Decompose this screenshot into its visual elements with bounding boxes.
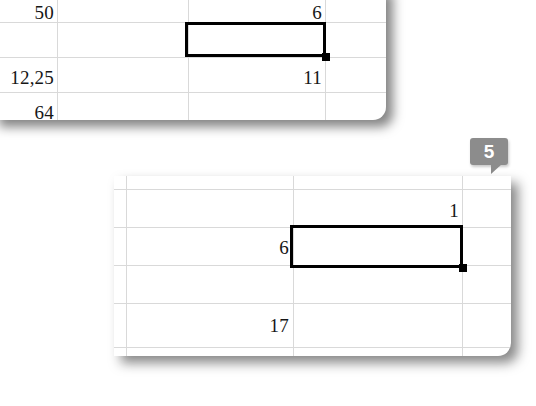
selection-rectangle[interactable] xyxy=(185,22,326,57)
gridline-vertical xyxy=(188,0,189,120)
fill-handle[interactable] xyxy=(459,264,467,272)
cell-6[interactable]: 6 xyxy=(208,3,322,22)
gridline-vertical xyxy=(126,176,127,356)
cell-6[interactable]: 6 xyxy=(194,238,289,257)
spreadsheet-fragment-top[interactable]: 50 6 12,25 11 64 xyxy=(0,0,386,120)
gridline-vertical xyxy=(57,0,58,120)
gridline-horizontal xyxy=(114,303,511,304)
selection-rectangle[interactable] xyxy=(290,225,463,268)
spreadsheet-fragment-bottom[interactable]: 1 6 17 xyxy=(114,176,511,356)
fill-handle[interactable] xyxy=(322,53,330,61)
cell-17[interactable]: 17 xyxy=(194,316,289,335)
cell-11[interactable]: 11 xyxy=(208,68,322,87)
step-callout-number: 5 xyxy=(484,141,495,162)
step-callout-badge: 5 xyxy=(470,138,508,165)
gridline-horizontal xyxy=(114,347,511,348)
gridline-horizontal xyxy=(114,189,511,190)
cell-12-25[interactable]: 12,25 xyxy=(0,68,54,87)
callout-tail-icon xyxy=(491,164,502,174)
cell-1[interactable]: 1 xyxy=(349,201,459,220)
cell-64[interactable]: 64 xyxy=(0,103,54,120)
cell-50[interactable]: 50 xyxy=(0,3,54,22)
